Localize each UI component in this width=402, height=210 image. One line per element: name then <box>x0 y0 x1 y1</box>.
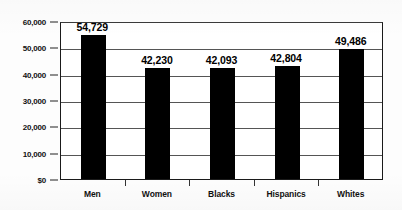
bar-value-label: 49,486 <box>335 35 367 47</box>
y-axis-tick-label: $0 <box>38 176 47 185</box>
x-axis-category-label: Hispanics <box>266 189 305 199</box>
bar <box>275 66 300 179</box>
bar <box>145 68 170 179</box>
bar <box>81 35 106 179</box>
y-axis-tick-mark <box>50 74 58 75</box>
bar-value-label: 42,230 <box>141 54 173 66</box>
bar-value-label: 42,804 <box>270 52 302 64</box>
y-axis-tick-mark <box>50 180 58 181</box>
y-axis-tick-mark <box>50 48 58 49</box>
y-axis-tick-label: 40,000 <box>23 70 46 79</box>
y-axis: $010,00020,00030,00040,00050,00060,000 <box>0 0 58 210</box>
bar <box>339 49 364 179</box>
y-axis-tick-mark <box>50 22 58 23</box>
bar-chart: $010,00020,00030,00040,00050,00060,000 5… <box>0 0 402 210</box>
bar-value-label: 54,729 <box>77 21 109 33</box>
y-axis-tick-mark <box>50 101 58 102</box>
y-axis-tick-label: 60,000 <box>23 18 46 27</box>
x-axis-tick-mark <box>189 180 190 186</box>
bar-value-label: 42,093 <box>206 54 238 66</box>
bar <box>210 68 235 179</box>
x-axis-tick-mark <box>254 180 255 186</box>
y-axis-tick-label: 50,000 <box>23 44 46 53</box>
gridline <box>61 49 382 50</box>
x-axis-category-label: Women <box>142 189 172 199</box>
y-axis-tick-label: 20,000 <box>23 123 46 132</box>
x-axis-category-label: Men <box>84 189 101 199</box>
x-axis-tick-mark <box>318 180 319 186</box>
y-axis-tick-label: 30,000 <box>23 97 46 106</box>
x-axis-category-label: Blacks <box>208 189 235 199</box>
x-axis-category-label: Whites <box>337 189 364 199</box>
y-axis-tick-mark <box>50 153 58 154</box>
x-axis-tick-mark <box>125 180 126 186</box>
y-axis-tick-mark <box>50 127 58 128</box>
y-axis-tick-label: 10,000 <box>23 149 46 158</box>
